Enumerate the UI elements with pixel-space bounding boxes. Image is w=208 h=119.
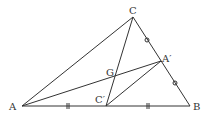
triangle-diagram: A B C A′ C′ G: [0, 0, 208, 119]
midline-c-prime-a-prime: [106, 61, 161, 106]
label-g: G: [106, 67, 114, 78]
label-a: A: [8, 101, 17, 112]
label-a-prime: A′: [161, 53, 172, 64]
label-c: C: [129, 5, 137, 16]
label-b: B: [193, 101, 200, 112]
median-cc-prime: [106, 17, 133, 106]
label-c-prime: C′: [95, 94, 106, 105]
median-aa-prime: [22, 61, 161, 106]
side-ca: [22, 17, 133, 106]
